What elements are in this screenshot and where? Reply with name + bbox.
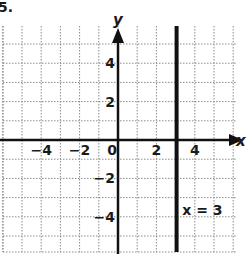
- annotations: x = 3: [182, 202, 222, 218]
- line-equation-label: x = 3: [182, 202, 222, 218]
- x-axis-label: x: [235, 132, 247, 150]
- x-tick-label: 0: [107, 142, 117, 158]
- x-tick-label: 4: [190, 142, 200, 158]
- x-tick-label: 2: [152, 142, 162, 158]
- x-tick-label: −4: [30, 142, 52, 158]
- x-tick-label: −2: [69, 142, 90, 158]
- problem-number: 5.: [0, 0, 13, 15]
- y-tick-label: 2: [105, 94, 115, 110]
- coordinate-plane: 5. xy −4−202442−2−4 x = 3: [0, 0, 250, 263]
- y-tick-label: −4: [94, 209, 116, 225]
- y-axis-arrow-icon: [112, 28, 124, 43]
- y-tick-label: 4: [105, 55, 115, 71]
- y-axis-label: y: [113, 11, 124, 29]
- y-tick-label: −2: [94, 170, 115, 186]
